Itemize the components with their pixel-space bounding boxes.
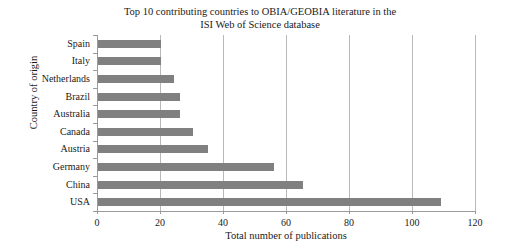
bar xyxy=(98,110,180,118)
y-tick-label: Spain xyxy=(5,39,90,49)
y-tick-label: Australia xyxy=(5,109,90,119)
y-tick-mark xyxy=(93,193,97,194)
x-axis-title: Total number of publications xyxy=(97,230,475,241)
x-tick-label: 120 xyxy=(455,217,495,228)
gridline xyxy=(349,35,350,211)
y-tick-mark xyxy=(93,158,97,159)
chart-title: Top 10 contributing countries to OBIA/GE… xyxy=(60,5,460,31)
y-tick-label: Canada xyxy=(5,127,90,137)
y-tick-label: Austria xyxy=(5,144,90,154)
x-tick-mark xyxy=(349,211,350,214)
y-tick-mark xyxy=(93,176,97,177)
bar xyxy=(98,145,208,153)
bar xyxy=(98,163,274,171)
y-tick-mark xyxy=(93,141,97,142)
x-tick-mark xyxy=(160,211,161,214)
x-tick-mark xyxy=(97,211,98,214)
y-tick-label: Netherlands xyxy=(5,74,90,84)
y-tick-mark xyxy=(93,35,97,36)
y-tick-mark xyxy=(93,53,97,54)
bar xyxy=(98,40,161,48)
x-tick-label: 100 xyxy=(392,217,432,228)
x-tick-label: 40 xyxy=(203,217,243,228)
plot-area: 020406080100120 SpainItalyNetherlandsBra… xyxy=(97,35,475,211)
x-tick-mark xyxy=(475,211,476,214)
x-tick-mark xyxy=(412,211,413,214)
y-tick-mark xyxy=(93,88,97,89)
x-tick-label: 60 xyxy=(266,217,306,228)
y-tick-label: USA xyxy=(5,197,90,207)
gridline xyxy=(475,35,476,211)
y-tick-mark xyxy=(93,70,97,71)
y-tick-label: Italy xyxy=(5,56,90,66)
bar xyxy=(98,57,161,65)
bar xyxy=(98,198,441,206)
y-tick-mark xyxy=(93,211,97,212)
x-tick-mark xyxy=(286,211,287,214)
y-tick-label: Germany xyxy=(5,162,90,172)
bar xyxy=(98,93,180,101)
y-tick-mark xyxy=(93,105,97,106)
bar xyxy=(98,181,303,189)
x-tick-label: 20 xyxy=(140,217,180,228)
chart-figure: Top 10 contributing countries to OBIA/GE… xyxy=(0,0,506,250)
bar xyxy=(98,128,193,136)
y-tick-label: China xyxy=(5,180,90,190)
x-tick-label: 0 xyxy=(77,217,117,228)
y-tick-label: Brazil xyxy=(5,92,90,102)
x-tick-label: 80 xyxy=(329,217,369,228)
gridline xyxy=(412,35,413,211)
x-tick-mark xyxy=(223,211,224,214)
y-tick-mark xyxy=(93,123,97,124)
bar xyxy=(98,75,174,83)
